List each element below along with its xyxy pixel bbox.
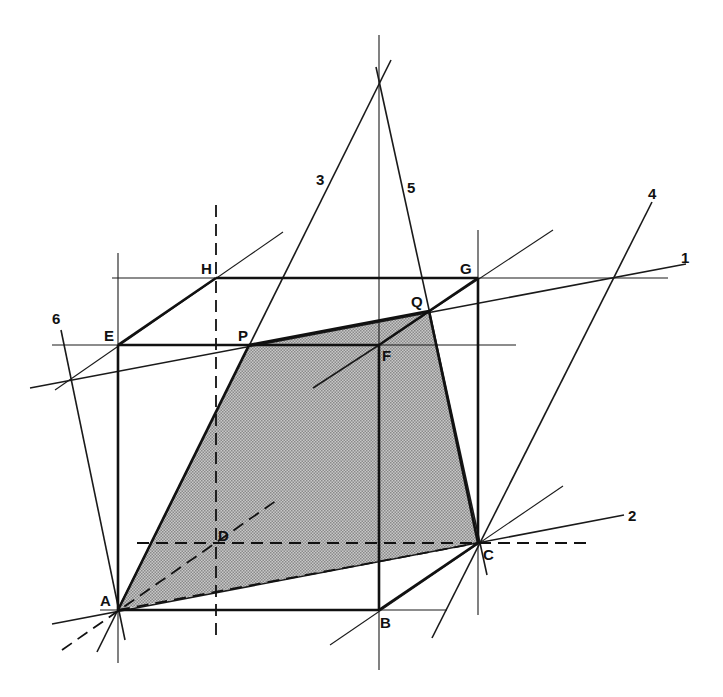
label-line-3: 3 — [316, 171, 324, 188]
label-line-4: 4 — [648, 185, 657, 202]
label-d: D — [218, 527, 229, 544]
label-a: A — [100, 592, 111, 609]
label-line-1: 1 — [681, 249, 689, 266]
label-c: C — [483, 546, 494, 563]
label-e: E — [104, 327, 114, 344]
label-f: F — [382, 347, 391, 364]
label-p: P — [238, 327, 248, 344]
section-quadrilateral — [118, 311, 478, 610]
label-line-5: 5 — [407, 179, 415, 196]
label-line-2: 2 — [628, 507, 636, 524]
label-q: Q — [411, 293, 423, 310]
label-line-6: 6 — [52, 310, 60, 327]
cube-section-diagram: A B C D E F G H P Q 1 2 3 4 5 6 — [0, 0, 723, 697]
label-h: H — [201, 260, 212, 277]
label-b: B — [380, 614, 391, 631]
label-g: G — [460, 260, 472, 277]
edge-he — [118, 278, 216, 345]
